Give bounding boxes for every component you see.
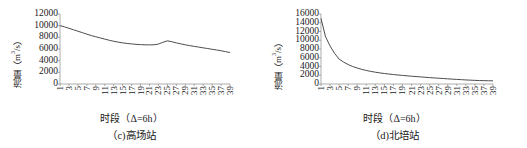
y-axis-tick-label: 4000 (300, 62, 319, 72)
line-chart-svg (60, 14, 230, 84)
y-axis-tick-label: 8000 (300, 44, 319, 54)
x-axis-tick-label: 39 (489, 86, 498, 95)
y-axis-tick-labels: 0200040006000800010000120001400016000 (279, 0, 319, 148)
x-axis-title: 时段（Δ=6h） (263, 110, 526, 125)
x-axis-title: 时段（Δ=6h） (0, 110, 263, 125)
x-axis-tick-labels: 13579111315171921232527293133353739 (321, 86, 493, 108)
plot-area (321, 14, 493, 84)
panel-caption: （d)北培站 (263, 127, 526, 142)
y-axis-tick-label: 14000 (295, 18, 319, 28)
x-axis-tick-label: 39 (226, 86, 235, 95)
figure-row: 流量（m3/s） 020004000600080001000012000 135… (0, 0, 527, 148)
chart-panel-gaochang: 流量（m3/s） 020004000600080001000012000 135… (0, 0, 263, 148)
line-chart-svg (321, 14, 493, 84)
panel-caption: （c)高场站 (0, 127, 263, 142)
y-axis-tick-label: 12000 (295, 27, 319, 37)
y-axis-tick-label: 2000 (39, 68, 58, 78)
y-axis-tick-label: 10000 (295, 36, 319, 46)
y-axis-tick-label: 12000 (34, 9, 58, 19)
chart-panel-beipei: 流量（m3/s） 0200040006000800010000120001400… (263, 0, 526, 148)
y-axis-tick-label: 4000 (39, 56, 58, 66)
y-axis-tick-label: 6000 (39, 44, 58, 54)
y-axis-tick-label: 16000 (295, 9, 319, 19)
plot-area (60, 14, 230, 84)
y-axis-tick-label: 10000 (34, 21, 58, 31)
y-axis-tick-label: 6000 (300, 53, 319, 63)
y-axis-title-sup: 3 (10, 51, 16, 54)
y-axis-tick-label: 8000 (39, 33, 58, 43)
data-series-line (321, 18, 493, 80)
data-series-line (60, 26, 230, 53)
x-axis-tick-labels: 13579111315171921232527293133353739 (60, 86, 230, 108)
y-axis-tick-label: 2000 (300, 71, 319, 81)
y-axis-tick-labels: 020004000600080001000012000 (18, 0, 58, 148)
y-axis-title-sup: 3 (271, 53, 277, 56)
